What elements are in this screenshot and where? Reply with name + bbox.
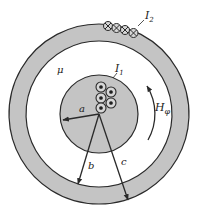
- label-b: b: [88, 160, 94, 171]
- label-I1: I1: [114, 62, 124, 77]
- label-a: a: [79, 103, 85, 114]
- label-mu: μ: [57, 64, 64, 75]
- label-H-phi: Hφ: [154, 101, 171, 116]
- H-phi-field-arrow: [147, 86, 155, 140]
- label-I2: I2: [144, 9, 154, 24]
- label-c: c: [121, 156, 127, 167]
- coaxial-cable-diagram: I2 I1 μ Hφ a b c: [0, 0, 200, 213]
- I2-leader-line: [138, 20, 144, 26]
